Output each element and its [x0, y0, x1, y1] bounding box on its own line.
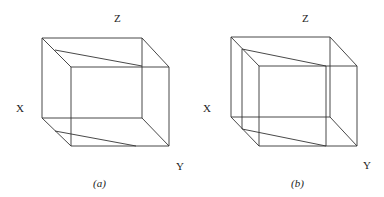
front-face	[259, 66, 357, 146]
axis-label-z-b: Z	[302, 12, 309, 24]
edge	[330, 117, 357, 146]
back-face	[231, 37, 330, 117]
figure-canvas: Z X Y (a) Z X Y (b)	[0, 0, 384, 197]
axis-label-y-a: Y	[176, 160, 184, 172]
edge	[42, 118, 71, 146]
caption-a: (a)	[93, 177, 106, 190]
caption-b: (b)	[291, 177, 304, 190]
slanted-plane-bottom	[55, 131, 136, 146]
slanted-plane-bottom	[242, 129, 326, 146]
axis-label-x-a: X	[16, 102, 24, 114]
front-face	[71, 67, 169, 146]
axis-label-z-a: Z	[114, 12, 121, 24]
edge	[142, 38, 169, 67]
edge	[330, 37, 357, 66]
edge	[142, 118, 169, 146]
axis-label-y-b: Y	[363, 159, 371, 171]
axis-label-x-b: X	[203, 102, 211, 114]
panel-b-cube	[231, 37, 357, 146]
panel-a-cube	[42, 38, 169, 146]
slanted-plane-top	[242, 49, 326, 66]
